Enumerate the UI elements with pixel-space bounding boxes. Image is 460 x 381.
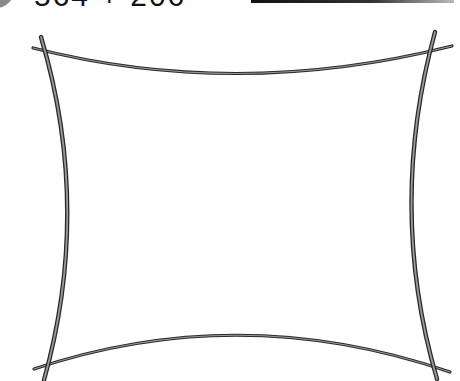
drawing-frame bbox=[0, 0, 460, 381]
